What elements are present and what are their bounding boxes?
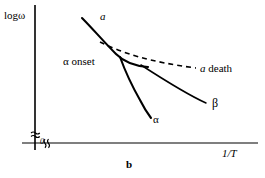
beta-label: β — [212, 97, 218, 109]
figure-container: logω 1/T 0 a α onset a death β α b — [0, 0, 265, 178]
x-axis-label-variable: T — [231, 147, 237, 159]
origin-label: 0 — [40, 138, 44, 146]
curve-beta — [141, 65, 206, 103]
a-death-label-rest: death — [206, 62, 233, 74]
curve-a-label: a — [100, 11, 106, 22]
x-axis-label: 1/T — [222, 148, 237, 159]
x-axis-label-numerator: 1/ — [222, 147, 231, 159]
y-axis-label: logω — [4, 10, 25, 21]
figure-caption: b — [126, 159, 132, 170]
curve-a-death-dashed — [100, 42, 196, 68]
alpha-onset-label: α onset — [63, 56, 95, 67]
a-death-label: a death — [200, 63, 232, 74]
alpha-label: α — [153, 114, 159, 125]
